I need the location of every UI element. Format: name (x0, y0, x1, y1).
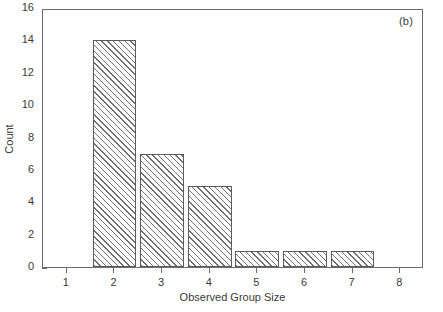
x-tick-label: 7 (332, 276, 372, 288)
panel-label: (b) (399, 15, 413, 27)
bar (283, 251, 327, 267)
x-tick-mark (399, 268, 400, 273)
bar (235, 251, 279, 267)
x-tick-mark (352, 268, 353, 273)
y-tick-label: 0 (0, 260, 34, 272)
x-tick-label: 3 (141, 276, 181, 288)
x-tick-mark (304, 268, 305, 273)
x-tick-label: 2 (93, 276, 133, 288)
bar (93, 40, 137, 267)
x-tick-mark (161, 268, 162, 273)
x-tick-mark (66, 268, 67, 273)
y-tick-label: 4 (0, 195, 34, 207)
y-tick-label: 14 (0, 33, 34, 45)
bar (188, 186, 232, 267)
bars-layer (43, 10, 422, 267)
x-tick-label: 1 (46, 276, 86, 288)
x-tick-mark (256, 268, 257, 273)
bar (140, 154, 184, 267)
plot-area: (b) (42, 9, 423, 268)
y-tick-mark (42, 268, 47, 269)
x-tick-label: 6 (284, 276, 324, 288)
y-tick-label: 16 (0, 1, 34, 13)
x-tick-label: 8 (379, 276, 419, 288)
x-axis-title: Observed Group Size (42, 291, 423, 303)
x-tick-label: 5 (236, 276, 276, 288)
x-tick-mark (209, 268, 210, 273)
y-tick-label: 2 (0, 228, 34, 240)
y-tick-label: 10 (0, 98, 34, 110)
x-tick-mark (113, 268, 114, 273)
y-tick-label: 12 (0, 66, 34, 78)
y-tick-label: 8 (0, 131, 34, 143)
x-tick-label: 4 (189, 276, 229, 288)
bar (331, 251, 375, 267)
y-tick-label: 6 (0, 163, 34, 175)
figure-histogram: Count 0246810121416 (b) 12345678 Observe… (0, 0, 443, 312)
